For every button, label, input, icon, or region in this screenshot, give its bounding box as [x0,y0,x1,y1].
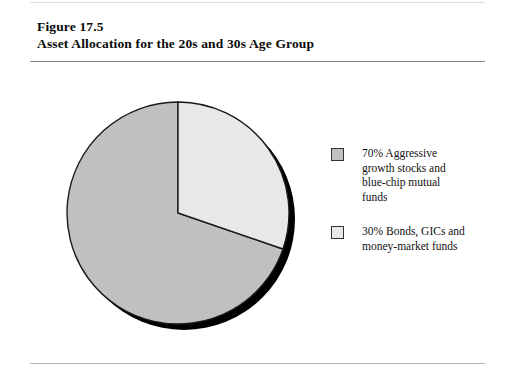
top-divider [30,2,485,3]
figure-caption: Asset Allocation for the 20s and 30s Age… [37,36,314,53]
pie-chart [60,75,310,330]
figure-panel: Figure 17.5 Asset Allocation for the 20s… [0,0,514,378]
title-divider [30,61,485,62]
figure-title: Figure 17.5 Asset Allocation for the 20s… [37,19,314,52]
legend-swatch-icon-aggressive-growth [331,148,344,161]
legend-label-line: growth stocks and [362,161,446,176]
legend-label-line: blue-chip mutual [362,175,446,190]
legend-swatch-icon-bonds-gics [331,226,344,239]
legend-label-line: 70% Aggressive [362,146,446,161]
legend-label-bonds-gics: 30% Bonds, GICs and money-market funds [362,224,465,253]
pie-chart-svg [60,75,310,330]
legend-item-bonds-gics: 30% Bonds, GICs and money-market funds [331,224,503,253]
legend-item-aggressive-growth: 70% Aggressive growth stocks and blue-ch… [331,146,503,204]
chart-legend: 70% Aggressive growth stocks and blue-ch… [331,146,503,254]
figure-number: Figure 17.5 [37,19,314,36]
legend-label-line: money-market funds [362,239,465,254]
legend-label-line: funds [362,190,446,205]
legend-label-aggressive-growth: 70% Aggressive growth stocks and blue-ch… [362,146,446,204]
legend-label-line: 30% Bonds, GICs and [362,224,465,239]
bottom-divider [30,363,485,364]
